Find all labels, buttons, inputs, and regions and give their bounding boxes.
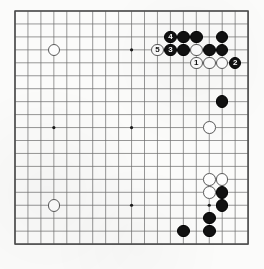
go-board-diagram: 45312 xyxy=(0,0,264,269)
star-point xyxy=(52,126,55,129)
stone-white[interactable] xyxy=(216,173,229,186)
stone-black[interactable] xyxy=(190,31,203,44)
star-point xyxy=(208,204,211,207)
star-point xyxy=(130,48,133,51)
stone-black[interactable] xyxy=(203,225,216,238)
stone-white[interactable] xyxy=(203,173,216,186)
stone-move-5[interactable]: 5 xyxy=(151,44,164,57)
stone-black[interactable] xyxy=(216,186,229,199)
stone-black[interactable] xyxy=(203,212,216,225)
stone-move-number: 3 xyxy=(168,46,172,54)
stone-move-1[interactable]: 1 xyxy=(190,57,203,70)
stone-move-number: 5 xyxy=(155,46,159,54)
star-point xyxy=(130,126,133,129)
stone-move-number: 2 xyxy=(233,59,237,67)
stone-move-3[interactable]: 3 xyxy=(164,44,177,57)
stone-white[interactable] xyxy=(190,44,203,57)
stone-black[interactable] xyxy=(177,225,190,238)
stone-move-4[interactable]: 4 xyxy=(164,31,177,44)
stone-move-number: 4 xyxy=(168,33,172,41)
stone-black[interactable] xyxy=(177,44,190,57)
stone-move-number: 1 xyxy=(194,59,198,67)
stone-white[interactable] xyxy=(203,57,216,70)
stone-black[interactable] xyxy=(216,199,229,212)
stone-black[interactable] xyxy=(177,31,190,44)
star-point xyxy=(130,204,133,207)
stone-black[interactable] xyxy=(203,44,216,57)
stone-white[interactable] xyxy=(203,186,216,199)
stone-white[interactable] xyxy=(203,121,216,134)
stone-white[interactable] xyxy=(48,199,61,212)
